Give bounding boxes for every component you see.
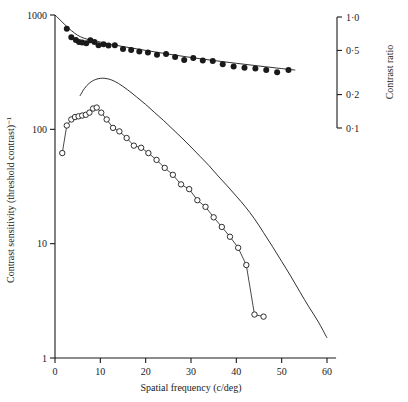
y2-axis-title: Contrast ratio [384,45,395,100]
data-point-open [154,157,159,162]
x-axis-tick-label: 50 [277,366,287,377]
data-point-open [162,165,167,170]
data-point-open [60,150,65,155]
x-axis-tick-label: 60 [322,366,332,377]
data-point-open [244,262,249,267]
data-point-filled [263,67,269,73]
y2-axis-tick-label: 0·2 [346,89,359,100]
data-point-open [227,234,232,239]
y2-axis-tick-label: 1·0 [346,12,359,23]
data-point-open [64,123,69,128]
data-point-filled [231,63,237,69]
y-axis-tick-label: 100 [32,124,47,135]
x-axis-tick-label: 30 [186,366,196,377]
data-point-open [110,125,115,130]
data-point-filled [285,67,291,73]
y-axis-tick-label: 1000 [27,10,47,21]
data-point-open [252,312,257,317]
x-axis-tick-label: 0 [53,366,58,377]
data-point-open [117,129,122,134]
data-point-open [195,198,200,203]
data-point-open [186,186,191,191]
data-point-open [124,135,129,140]
y2-axis-tick-label: 0·5 [346,45,359,56]
data-point-open [170,172,175,177]
y2-axis-tick-label: 0·1 [346,123,359,134]
data-point-open [138,145,143,150]
data-point-open [99,110,104,115]
data-point-open [261,314,266,319]
data-point-open [211,215,216,220]
data-point-open [104,117,109,122]
data-point-filled [181,57,187,63]
data-point-filled [210,58,216,64]
y-axis-title: Contrast sensitivity (threshold contrast… [5,117,17,283]
data-point-open [203,204,208,209]
data-point-open [94,105,99,110]
data-point-open [219,224,224,229]
data-point-open [235,245,240,250]
data-point-filled [252,66,258,72]
x-axis-tick-label: 10 [95,366,105,377]
data-point-filled [96,42,102,48]
figure-container: 110100100001020304050601·00·50·20·1 Spat… [0,0,408,402]
data-point-filled [241,65,247,71]
x-axis-tick-label: 40 [231,366,241,377]
data-point-open [131,143,136,148]
y-axis-tick-label: 10 [37,238,47,249]
x-axis-title: Spatial frequency (c/deg) [140,382,241,394]
data-point-open [178,182,183,187]
x-axis-tick-label: 20 [141,366,151,377]
y-axis-tick-label: 1 [42,353,47,364]
data-point-filled [274,69,280,75]
contrast-sensitivity-chart: 110100100001020304050601·00·50·20·1 Spat… [0,0,408,402]
data-point-open [146,150,151,155]
